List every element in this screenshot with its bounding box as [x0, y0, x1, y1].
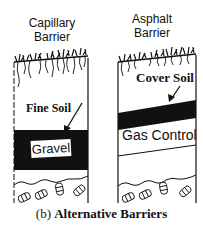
asphalt-layer	[118, 100, 196, 130]
vegetation-icon	[119, 47, 194, 62]
cover-soil-label: Cover Soil	[136, 70, 194, 86]
caption-text: Alternative Barriers	[54, 206, 167, 221]
caption-prefix: (b)	[36, 206, 51, 221]
fine-soil-label: Fine Soil	[26, 101, 71, 116]
capillary-barrier-panel	[14, 48, 88, 203]
waste-drum-icons	[17, 183, 86, 204]
figure-caption: (b) Alternative Barriers	[0, 206, 203, 222]
gravel-label-box: Gravel	[31, 139, 72, 158]
gas-control-label: Gas Control	[122, 127, 197, 143]
gravel-label: Gravel	[31, 140, 70, 157]
vegetation-icon	[15, 48, 86, 62]
